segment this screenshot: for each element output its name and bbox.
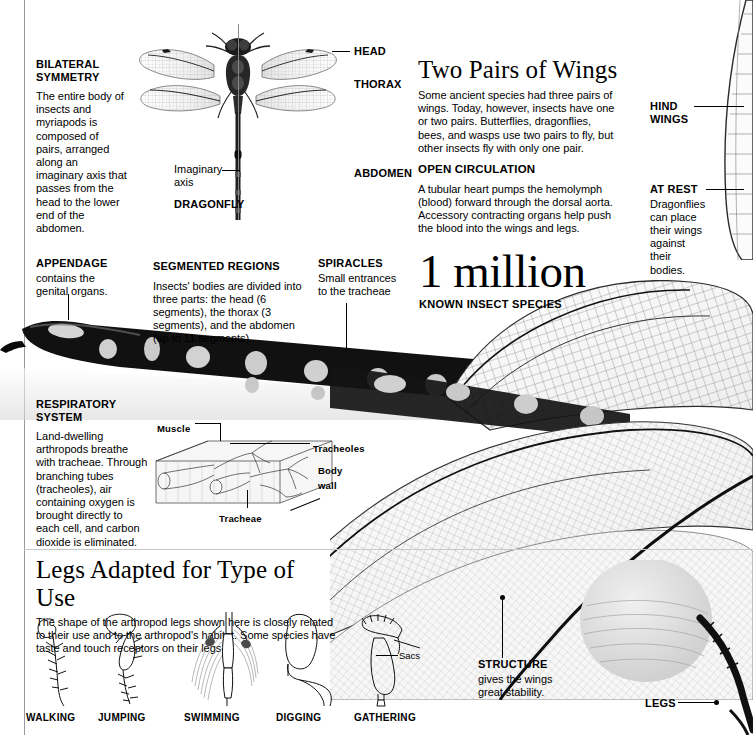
two-pairs-of-wings-title: Two Pairs of Wings (418, 56, 618, 84)
structure-heading: STRUCTURE (478, 658, 564, 671)
leg-types-row: WALKING JUMPING (24, 612, 444, 732)
leg-caption-digging: DIGGING (276, 712, 321, 723)
legs-section-divider (24, 549, 753, 550)
tracheoles-label: Tracheoles (313, 438, 365, 456)
respiratory-system-heading: RESPIRATORY SYSTEM (36, 398, 148, 423)
segmented-regions-block: SEGMENTED REGIONS Insects' bodies are di… (153, 260, 313, 346)
head-leader-line (332, 51, 350, 52)
muscle-leader-drop (220, 423, 221, 441)
leg-caption-jumping: JUMPING (98, 712, 146, 723)
stat-value: 1 million (419, 248, 586, 295)
at-rest-heading: AT REST (650, 183, 708, 196)
callout-head: HEAD (354, 45, 386, 58)
callout-thorax: THORAX (354, 78, 402, 91)
leg-type-swimming: SWIMMING (180, 612, 275, 707)
at-rest-leader-line (706, 189, 744, 190)
at-rest-body: Dragonflies can place their wings agains… (650, 198, 708, 277)
infographic-page: · · · · (0, 0, 753, 735)
appendage-leader-line (68, 294, 69, 320)
tracheae-box-diagram (152, 425, 337, 520)
spiracles-heading: SPIRACLES (318, 257, 398, 270)
appendage-body: contains the genital organs. (36, 272, 128, 298)
hind-wings-leader-line (694, 106, 744, 107)
two-pairs-of-wings-body: Some ancient species had three pairs of … (418, 89, 618, 155)
imaginary-axis-leader (222, 170, 240, 171)
segmented-regions-heading: SEGMENTED REGIONS (153, 260, 313, 273)
imaginary-axis-line (238, 24, 239, 220)
legs-section-title: Legs Adapted for Type of Use (36, 556, 336, 612)
muscle-leader-line (195, 423, 221, 424)
open-circulation-block: OPEN CIRCULATION A tubular heart pumps t… (418, 163, 618, 235)
legs-label: LEGS (645, 697, 676, 710)
open-circulation-body: A tubular heart pumps the hemolymph (blo… (418, 183, 618, 236)
leg-caption-swimming: SWIMMING (184, 712, 240, 723)
sacs-label: Sacs (399, 650, 420, 661)
leg-type-jumping: JUMPING (96, 612, 176, 707)
stat-block: 1 million KNOWN INSECT SPECIES (419, 248, 586, 310)
at-rest-block: AT REST Dragonflies can place their wing… (650, 183, 708, 277)
body-wall-label: Body wall (318, 463, 343, 492)
open-circulation-heading: OPEN CIRCULATION (418, 163, 618, 176)
leg-type-digging: DIGGING (274, 612, 354, 707)
spiracles-block: SPIRACLES Small entrances to the trachea… (318, 257, 398, 298)
leg-type-walking: WALKING (24, 612, 94, 707)
tracheae-leader-line (247, 490, 248, 508)
leg-caption-gathering: GATHERING (354, 712, 416, 723)
structure-block: STRUCTURE gives the wings great stabilit… (478, 658, 564, 699)
structure-body: gives the wings great stability. (478, 673, 564, 699)
appendage-block: APPENDAGE contains the genital organs. (36, 257, 128, 298)
tracheoles-leader-line (230, 443, 310, 444)
leg-caption-walking: WALKING (26, 712, 75, 723)
bilateral-symmetry-heading: BILATERAL SYMMETRY (36, 58, 128, 83)
segmented-regions-body: Insects' bodies are divided into three p… (153, 280, 313, 346)
tracheae-muscle-label: Muscle (157, 418, 190, 436)
bilateral-symmetry-body: The entire body of insects and myriapods… (36, 90, 128, 235)
legs-leader-line (678, 702, 716, 703)
callout-abdomen: ABDOMEN (354, 167, 412, 180)
sacs-leader-line (376, 655, 398, 656)
tracheae-label: Tracheae (219, 508, 262, 526)
imaginary-axis-label: Imaginary axis (174, 163, 234, 189)
spiracles-body: Small entrances to the tracheae (318, 272, 398, 298)
spiracles-leader-line (346, 303, 347, 351)
respiratory-system-body: Land-dwelling arthropods breathe with tr… (36, 430, 148, 549)
respiratory-system-block: RESPIRATORY SYSTEM Land-dwelling arthrop… (36, 398, 148, 549)
appendage-heading: APPENDAGE (36, 257, 128, 270)
dragonfly-caption: DRAGONFLY (174, 198, 244, 211)
bilateral-symmetry-block: BILATERAL SYMMETRY The entire body of in… (36, 58, 128, 235)
structure-leader-line (502, 600, 503, 658)
stat-caption: KNOWN INSECT SPECIES (419, 298, 586, 310)
hind-wings-label: HIND WINGS (650, 100, 688, 125)
two-pairs-of-wings-block: Two Pairs of Wings Some ancient species … (418, 56, 618, 155)
legs-anchor-dot (714, 700, 719, 705)
top-cut-text: · · · · (150, 0, 228, 4)
